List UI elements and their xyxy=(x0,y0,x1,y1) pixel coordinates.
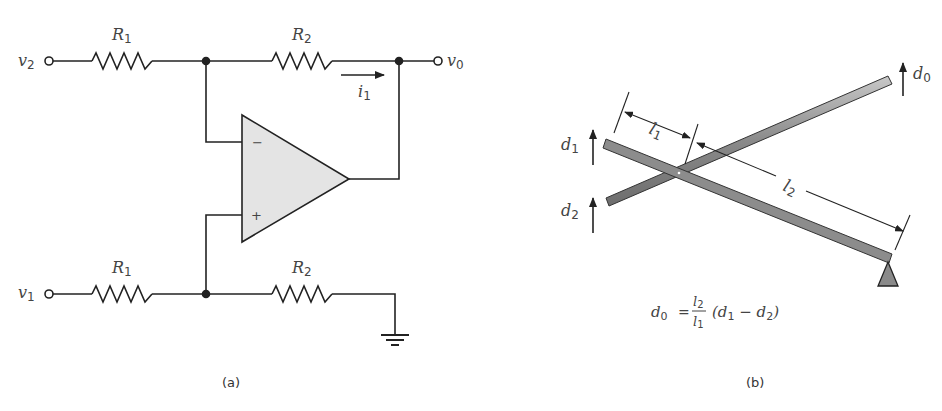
v1-terminal xyxy=(45,290,53,298)
bar-input xyxy=(603,139,892,263)
svg-text:d0: d0 xyxy=(651,303,668,323)
resistor-r2-bottom xyxy=(272,286,332,302)
junction-bottom xyxy=(203,291,210,298)
figure-canvas: v2 v0 v1 R1 R2 R1 R2 i1 − + (a) d0 xyxy=(0,0,942,411)
caption-a: (a) xyxy=(222,375,240,390)
label-v2: v2 xyxy=(18,51,35,72)
svg-text:l2: l2 xyxy=(693,294,704,310)
resistor-r1-bottom xyxy=(92,286,152,302)
pivot-triangle xyxy=(878,262,898,286)
resistor-r2-top xyxy=(272,53,332,69)
label-l2: l2 xyxy=(780,175,800,200)
svg-text:(d1 − d2): (d1 − d2) xyxy=(712,303,779,323)
lever-equation: d0 = l2 l1 (d1 − d2) xyxy=(651,294,779,330)
inverting-input-sign: − xyxy=(252,135,263,150)
label-i1: i1 xyxy=(358,82,371,103)
caption-b: (b) xyxy=(746,375,764,390)
label-v0: v0 xyxy=(447,51,464,72)
ground-icon xyxy=(381,335,409,345)
label-r1-bottom: R1 xyxy=(111,258,132,279)
label-d0: d0 xyxy=(913,64,931,85)
resistor-r1-top xyxy=(92,53,152,69)
svg-text:l1: l1 xyxy=(693,314,704,330)
label-r2-top: R2 xyxy=(291,25,312,46)
v0-terminal xyxy=(434,57,442,65)
label-v1: v1 xyxy=(18,283,35,304)
label-r1-top: R1 xyxy=(111,25,132,46)
v2-terminal xyxy=(45,57,53,65)
panel-a-circuit xyxy=(45,53,442,345)
label-d1: d1 xyxy=(561,135,579,156)
noninverting-input-sign: + xyxy=(251,208,262,223)
label-d2: d2 xyxy=(561,201,579,222)
label-r2-bottom: R2 xyxy=(291,258,312,279)
svg-text:=: = xyxy=(678,304,690,320)
bar-output xyxy=(606,76,892,206)
panel-b-lever xyxy=(593,63,910,286)
